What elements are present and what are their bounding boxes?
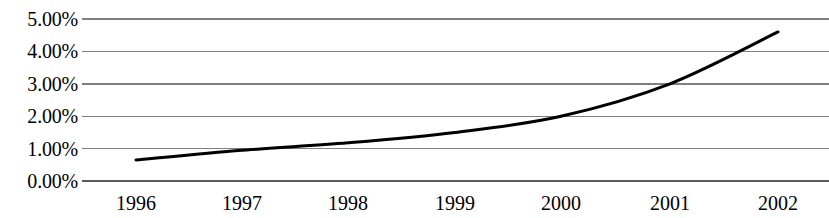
x-axis: 1996199719981999200020012002 bbox=[0, 0, 829, 218]
x-axis-tick-label: 1998 bbox=[328, 193, 368, 213]
x-axis-tick-label: 2002 bbox=[758, 193, 798, 213]
x-axis-tick-label: 2000 bbox=[541, 193, 581, 213]
x-axis-tick-label: 1996 bbox=[116, 193, 156, 213]
x-axis-tick-label: 2001 bbox=[650, 193, 690, 213]
line-chart: 0.00%1.00%2.00%3.00%4.00%5.00% 199619971… bbox=[0, 0, 829, 218]
x-axis-tick-label: 1997 bbox=[222, 193, 262, 213]
x-axis-tick-label: 1999 bbox=[435, 193, 475, 213]
